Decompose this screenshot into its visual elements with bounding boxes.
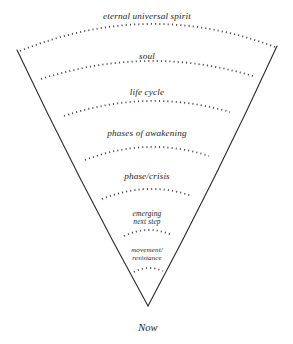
- cone-left-edge: [17, 50, 148, 306]
- cone-edges: [17, 46, 277, 306]
- cone-diagram: eternal universal spiritsoullife cycleph…: [0, 0, 293, 344]
- band-divider-arc: [102, 189, 192, 199]
- band-divider-arc: [64, 101, 230, 116]
- band-divider-arc: [134, 268, 163, 272]
- cone-graphic: [0, 0, 293, 344]
- cone-arc-group: [20, 24, 275, 272]
- band-divider-arc: [85, 147, 209, 160]
- band-divider-arc: [41, 61, 253, 79]
- apex-label-now: Now: [138, 322, 157, 333]
- band-divider-arc: [124, 230, 172, 236]
- band-divider-arc: [20, 24, 275, 51]
- cone-right-edge: [148, 46, 277, 306]
